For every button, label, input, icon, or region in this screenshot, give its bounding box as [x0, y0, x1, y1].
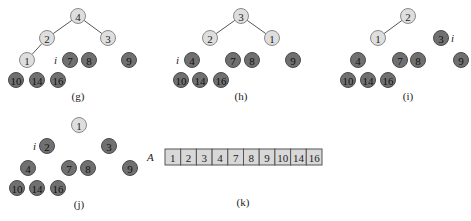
panel-caption: (i): [403, 90, 414, 103]
heap-node: 4: [351, 53, 366, 68]
array-cell-value: 10: [277, 152, 289, 164]
heap-node: 3: [102, 139, 117, 154]
heap-node: 9: [286, 53, 301, 68]
array-cell: 3: [196, 149, 212, 165]
panel-caption: (g): [72, 90, 85, 103]
heap-node: 2: [401, 9, 416, 24]
node-value: 1: [24, 55, 30, 67]
heap-node: 16: [381, 73, 396, 88]
node-value: 7: [67, 55, 73, 67]
heap-node: 14: [30, 181, 45, 196]
array-cell: 8: [244, 149, 260, 165]
heap-node: 3: [101, 31, 116, 46]
node-value: 3: [438, 33, 444, 45]
node-value: 7: [230, 55, 236, 67]
array-cell-value: 9: [264, 152, 270, 164]
node-value: 4: [25, 163, 31, 175]
node-value: 4: [75, 11, 81, 23]
heap-node: 16: [51, 73, 66, 88]
heapsort-diagram: 4231789101416i(g)3214789101416i(h)213478…: [0, 0, 471, 221]
heap-node: 9: [123, 161, 138, 176]
node-value: 10: [176, 75, 188, 87]
heap-node: 14: [30, 73, 45, 88]
node-value: 7: [66, 163, 72, 175]
array-cell-value: 3: [202, 152, 208, 164]
array-cell: 9: [259, 149, 275, 165]
node-value: 8: [415, 55, 421, 67]
node-value: 2: [207, 33, 213, 45]
heap-node: 4: [21, 161, 36, 176]
heap-node: 16: [51, 181, 66, 196]
tree-edge: [53, 20, 72, 33]
panel-caption: (j): [74, 198, 85, 211]
node-value: 16: [53, 75, 65, 87]
heap-node: 4: [71, 9, 86, 24]
heap-node: 9: [122, 53, 137, 68]
array-cell-value: 2: [186, 152, 192, 164]
index-label: i: [33, 140, 36, 152]
node-value: 9: [290, 55, 296, 67]
array-cell-value: 16: [309, 152, 321, 164]
heap-node: 1: [72, 118, 87, 133]
array-cell: 7: [228, 149, 244, 165]
node-value: 8: [86, 55, 92, 67]
heap-node: 7: [63, 53, 78, 68]
array-cell-value: 8: [249, 152, 255, 164]
heap-node: 7: [393, 53, 408, 68]
node-value: 10: [11, 75, 23, 87]
node-value: 10: [12, 183, 24, 195]
node-value: 4: [355, 55, 361, 67]
node-value: 2: [44, 141, 50, 153]
heap-node: 10: [341, 73, 356, 88]
node-value: 1: [375, 33, 381, 45]
array-name: A: [146, 151, 154, 163]
node-value: 9: [126, 55, 132, 67]
panel-caption: (h): [235, 90, 248, 103]
heap-node: 7: [62, 161, 77, 176]
heap-panel: 4231789101416i(g): [9, 9, 137, 104]
node-value: 3: [238, 11, 244, 23]
heap-node: 2: [40, 139, 55, 154]
node-value: 2: [44, 33, 50, 45]
heap-node: 8: [82, 53, 97, 68]
heap-node: 1: [20, 53, 35, 68]
heap-node: 3: [434, 31, 449, 46]
heap-node: 3: [234, 9, 249, 24]
node-value: 9: [127, 163, 133, 175]
heap-node: 8: [411, 53, 426, 68]
node-value: 14: [32, 75, 44, 87]
tree-edge: [384, 20, 402, 33]
heap-node: 1: [265, 31, 280, 46]
heap-node: 10: [174, 73, 189, 88]
node-value: 4: [189, 55, 195, 67]
tree-edge: [216, 20, 235, 33]
array-cell: 2: [181, 149, 197, 165]
node-value: 16: [53, 183, 65, 195]
heap-node: 8: [81, 161, 96, 176]
array-cell: 4: [212, 149, 228, 165]
heap-node: 14: [193, 73, 208, 88]
heap-node: 2: [203, 31, 218, 46]
node-value: 16: [216, 75, 228, 87]
panel-caption: (k): [237, 196, 250, 209]
node-value: 3: [105, 33, 111, 45]
heap-node: 8: [245, 53, 260, 68]
heap-node: 10: [10, 181, 25, 196]
node-value: 9: [458, 55, 464, 67]
node-value: 14: [363, 75, 375, 87]
array-cell-value: 4: [217, 152, 223, 164]
array-cell: 10: [275, 149, 291, 165]
array-cell: 16: [306, 149, 322, 165]
heap-node: 7: [226, 53, 241, 68]
node-value: 7: [397, 55, 403, 67]
node-value: 2: [405, 11, 411, 23]
index-label: i: [451, 32, 454, 44]
heap-node: 1: [371, 31, 386, 46]
tree-edge: [84, 20, 102, 33]
index-label: i: [54, 54, 57, 66]
tree-edge: [32, 44, 42, 55]
heap-node: 9: [454, 53, 469, 68]
heap-panel: 1234789101416i(j): [10, 118, 138, 212]
heap-panel: 3214789101416i(h): [174, 9, 301, 104]
index-label: i: [176, 54, 179, 66]
